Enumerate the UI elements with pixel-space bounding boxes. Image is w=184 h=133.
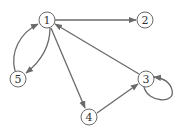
node-1: 1	[39, 12, 55, 28]
directed-graph: 1 2 3 4 5	[0, 0, 184, 133]
node-2: 2	[137, 12, 153, 28]
edge-4-to-3	[97, 84, 138, 113]
node-2-label: 2	[142, 14, 149, 27]
edges	[14, 20, 173, 113]
edge-5-to-1	[14, 24, 38, 71]
node-5-label: 5	[15, 73, 22, 86]
node-3: 3	[138, 71, 154, 87]
node-5: 5	[10, 71, 26, 87]
edge-1-to-4	[51, 28, 85, 108]
node-4-label: 4	[86, 111, 93, 124]
node-4: 4	[81, 109, 97, 125]
node-3-label: 3	[143, 73, 150, 86]
edge-1-to-5	[26, 28, 50, 73]
node-1-label: 1	[44, 14, 51, 27]
